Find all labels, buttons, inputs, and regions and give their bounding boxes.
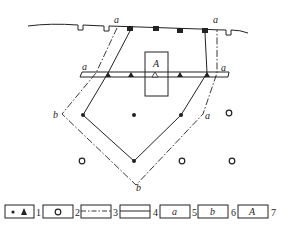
legend-number-6: 6 <box>231 207 236 218</box>
triangle-marker <box>177 72 183 77</box>
legend-text-6: b <box>210 206 215 217</box>
triangle-icon <box>21 208 27 215</box>
diagram-canvas: a a a a a b b A 1 2 3 4 a 5 b 6 A 7 <box>0 0 288 233</box>
legend-box-3 <box>81 205 111 218</box>
open-circle-marker <box>179 158 185 164</box>
triangle-marker <box>128 72 134 77</box>
label-b-side-left: b <box>53 109 58 120</box>
legend: 1 2 3 4 a 5 b 6 A 7 <box>5 205 276 218</box>
square-marker <box>127 26 133 31</box>
label-a-side-right: a <box>205 110 210 121</box>
legend-number-4: 4 <box>153 207 158 218</box>
label-b-bottom: b <box>136 182 141 193</box>
top-boundary-line <box>28 24 248 35</box>
label-a-top-left: a <box>114 14 119 25</box>
legend-number-7: 7 <box>271 207 276 218</box>
legend-box-1 <box>5 205 34 218</box>
label-a-bar-right: a <box>221 62 226 73</box>
dot-marker <box>132 113 136 117</box>
label-a-top-right: a <box>213 14 218 25</box>
label-box-a: A <box>152 58 160 69</box>
dot-marker <box>132 159 136 163</box>
open-circle-marker <box>79 158 85 164</box>
label-a-bar-left: a <box>82 61 87 72</box>
legend-number-1: 1 <box>36 207 41 218</box>
legend-number-3: 3 <box>113 207 118 218</box>
square-marker <box>177 28 183 33</box>
dot-marker <box>81 113 85 117</box>
open-circle-marker <box>226 110 232 116</box>
open-circle-icon <box>55 209 61 215</box>
legend-number-2: 2 <box>75 207 80 218</box>
legend-box-2 <box>43 205 73 218</box>
dot-marker <box>179 113 183 117</box>
legend-number-5: 5 <box>192 207 197 218</box>
legend-text-7: A <box>248 206 256 217</box>
legend-text-5: a <box>172 206 177 217</box>
triangle-marker <box>105 72 111 77</box>
square-marker <box>153 26 159 31</box>
triangle-marker <box>204 72 210 77</box>
open-circle-marker <box>229 158 235 164</box>
dot-icon <box>11 210 14 213</box>
square-marker <box>202 28 208 33</box>
